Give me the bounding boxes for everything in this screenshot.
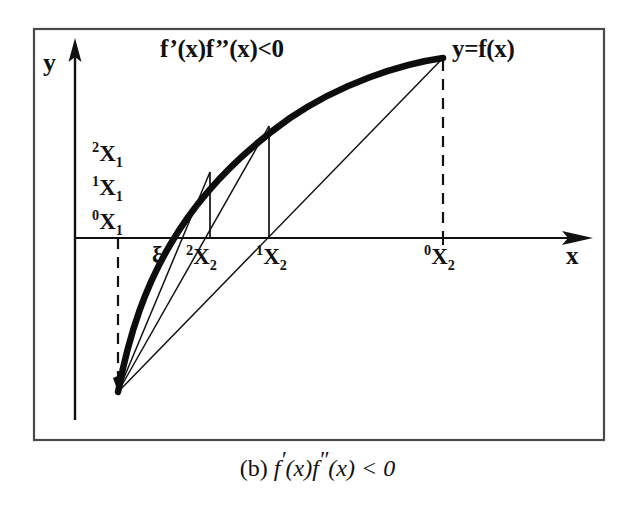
condition-title: f’(x)f’’(x)<0: [160, 36, 284, 61]
y-axis-label: y: [43, 50, 56, 76]
secant-line-0: [118, 58, 443, 392]
plot-canvas: [0, 0, 635, 509]
label-x2-iter0-base: X: [431, 244, 448, 269]
label-x2-iter0: 0X2: [424, 245, 455, 268]
x-axis-label: x: [566, 243, 579, 268]
label-x1-iter1-base: X: [99, 175, 116, 200]
label-x2-iter1-base: X: [263, 244, 280, 269]
caption-prime-double: ″: [319, 447, 329, 472]
caption-prefix: (b): [240, 455, 268, 481]
caption-f-dprime-base: f: [312, 455, 319, 481]
label-x2-iter2-sub: 2: [210, 257, 217, 273]
label-x1-iter0-base: X: [99, 209, 116, 234]
label-x2-iter2: 2X2: [186, 245, 217, 268]
figure-caption: (b) f′(x)f″(x) < 0: [0, 455, 635, 482]
label-root-xi: ξ: [152, 243, 162, 266]
caption-mid-arg: (x): [286, 455, 313, 481]
label-x1-iter1: 1X1: [92, 176, 123, 199]
caption-tail: (x) < 0: [328, 455, 395, 481]
label-x2-iter1-sub: 2: [280, 257, 287, 273]
label-x1-iter2-sub: 1: [116, 154, 123, 170]
label-x1-iter2: 2X1: [92, 142, 123, 165]
label-x1-iter0: 0X1: [92, 210, 123, 233]
label-x1-iter0-sub: 1: [116, 222, 123, 238]
curve-label: y=f(x): [452, 36, 514, 61]
caption-f-prime-base: f: [274, 455, 281, 481]
label-x1-iter2-base: X: [99, 141, 116, 166]
label-x1-iter1-sub: 1: [116, 188, 123, 204]
label-x2-iter2-base: X: [193, 244, 210, 269]
figure-container: y x f’(x)f’’(x)<0 y=f(x) 2X1 1X1 0X1 ξ 2…: [0, 0, 635, 509]
label-x2-iter0-sub: 2: [448, 257, 455, 273]
label-x2-iter1: 1X2: [256, 245, 287, 268]
